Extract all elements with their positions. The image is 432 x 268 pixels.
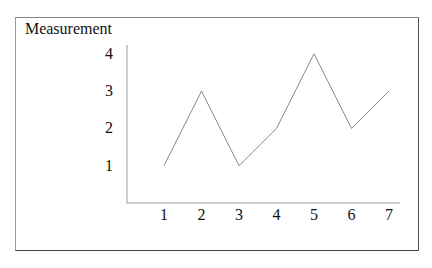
x-tick-label: 3	[235, 206, 243, 223]
y-axis-label: Measurement	[25, 20, 113, 37]
x-tick-label: 1	[160, 206, 168, 223]
y-tick-label: 4	[105, 45, 113, 62]
x-tick-labels: 1234567	[160, 206, 393, 223]
y-tick-label: 3	[105, 82, 113, 99]
y-tick-labels: 1234	[105, 45, 113, 174]
y-tick-label: 1	[105, 157, 113, 174]
x-tick-label: 7	[385, 206, 393, 223]
y-tick-label: 2	[105, 119, 113, 136]
line-chart: Measurement 1234 1234567	[0, 0, 432, 268]
series-line	[164, 54, 389, 166]
x-tick-label: 5	[310, 206, 318, 223]
x-tick-label: 6	[348, 206, 356, 223]
x-tick-label: 2	[198, 206, 206, 223]
x-tick-label: 4	[273, 206, 281, 223]
